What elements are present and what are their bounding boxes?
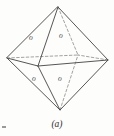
face-label-upper-right: o <box>59 32 63 40</box>
visible-edges-group <box>7 7 108 110</box>
page-corner-mark <box>2 126 6 128</box>
edge-bottom-front <box>38 66 60 110</box>
hidden-edges-group <box>7 7 108 110</box>
octahedron-silhouette <box>7 7 108 110</box>
face-label-lower-left: o <box>32 75 36 83</box>
edge-left-back <box>7 55 78 58</box>
figure-caption: (a) <box>0 118 114 130</box>
octahedron-drawing <box>0 0 114 118</box>
edge-top-front <box>38 7 58 66</box>
face-label-lower-right: o <box>58 75 62 83</box>
face-label-upper-left: o <box>29 34 33 42</box>
octahedron-figure: o o o o (a) <box>0 0 114 136</box>
edge-right-front <box>38 60 108 66</box>
